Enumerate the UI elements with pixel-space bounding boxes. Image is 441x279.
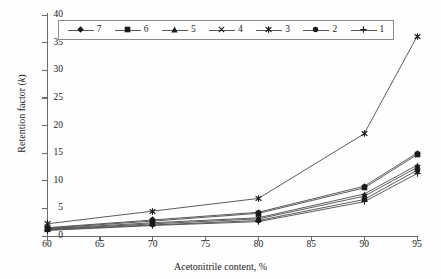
legend-label: 1 (379, 25, 385, 35)
legend-label: 5 (190, 25, 196, 35)
legend-marker-plus-icon (351, 25, 377, 36)
legend-marker-triangle-icon (162, 25, 188, 36)
legend-item-4[interactable]: 4 (209, 25, 243, 36)
legend-label: 2 (331, 25, 337, 35)
legend-marker-circle-icon (303, 25, 329, 36)
legend-marker-x-icon (209, 25, 235, 36)
data-point-marker (149, 222, 156, 229)
x-axis-title: Acetonitrile content, % (0, 261, 441, 272)
legend-label: 4 (237, 25, 243, 35)
data-point-marker (255, 195, 262, 202)
y-axis-title: Retention factor (k) (16, 49, 27, 179)
legend-label: 3 (284, 25, 290, 35)
data-point-marker (361, 198, 368, 205)
legend-marker-asterisk-icon (256, 25, 282, 36)
legend-item-3[interactable]: 3 (256, 25, 290, 36)
legend-marker-square-icon (115, 25, 141, 36)
data-point-marker (414, 170, 421, 177)
data-point-marker (361, 130, 368, 137)
data-point-marker (414, 151, 421, 158)
data-point-marker (414, 33, 421, 40)
data-point-marker (44, 227, 51, 234)
data-point-marker (255, 218, 262, 225)
legend-label: 6 (143, 25, 149, 35)
legend-item-2[interactable]: 2 (303, 25, 337, 36)
legend-item-7[interactable]: 7 (68, 25, 102, 36)
legend-item-1[interactable]: 1 (351, 25, 385, 36)
data-point-marker (149, 208, 156, 215)
legend-item-6[interactable]: 6 (115, 25, 149, 36)
legend: 7654321 (58, 20, 394, 40)
legend-item-5[interactable]: 5 (162, 25, 196, 36)
series-lines (0, 0, 441, 279)
plot-area: 0510152025303540 6065707580859095 765432… (0, 0, 441, 279)
legend-marker-diamond-icon (68, 25, 94, 36)
legend-label: 7 (96, 25, 102, 35)
chart-figure: 0510152025303540 6065707580859095 765432… (0, 0, 441, 279)
